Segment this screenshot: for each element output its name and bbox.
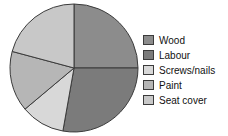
pie-slice-group bbox=[10, 4, 138, 132]
pie-slice-labour bbox=[63, 68, 138, 132]
pie-svg bbox=[8, 2, 140, 134]
legend-swatch-labour bbox=[143, 50, 154, 60]
legend-swatch-wood bbox=[143, 35, 154, 45]
legend-item-screws-nails: Screws/nails bbox=[143, 63, 228, 77]
legend-swatch-seat-cover bbox=[143, 95, 154, 105]
pie-plot-area bbox=[8, 2, 140, 134]
legend-label-wood: Wood bbox=[159, 35, 185, 46]
legend-label-labour: Labour bbox=[159, 50, 190, 61]
chart-legend: Wood Labour Screws/nails Paint Seat cove… bbox=[143, 33, 228, 109]
legend-item-labour: Labour bbox=[143, 48, 228, 62]
legend-swatch-paint bbox=[143, 80, 154, 90]
legend-label-screws-nails: Screws/nails bbox=[159, 65, 215, 76]
pie-slice-wood bbox=[74, 4, 138, 68]
pie-chart-figure: Wood Labour Screws/nails Paint Seat cove… bbox=[0, 0, 228, 136]
legend-item-paint: Paint bbox=[143, 78, 228, 92]
legend-label-paint: Paint bbox=[159, 80, 182, 91]
legend-item-wood: Wood bbox=[143, 33, 228, 47]
legend-swatch-screws-nails bbox=[143, 65, 154, 75]
legend-label-seat-cover: Seat cover bbox=[159, 95, 207, 106]
legend-item-seat-cover: Seat cover bbox=[143, 93, 228, 107]
